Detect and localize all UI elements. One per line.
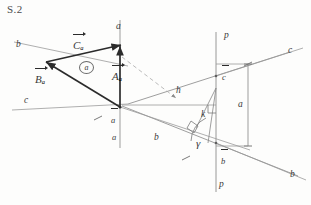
apex-a-bar-overline [111, 108, 118, 109]
tick-b-lower-right [182, 156, 190, 160]
label-vector-C-sub: a [80, 44, 83, 51]
node-apex [119, 106, 122, 109]
label-right-a: a [238, 100, 243, 110]
label-c-bar: c [222, 66, 229, 84]
vector-arrowhead-A [122, 63, 125, 67]
label-trace-b-upper: b [16, 40, 21, 50]
label-plane-marker: a [79, 61, 94, 74]
label-vector-A: Aa [112, 66, 123, 84]
node-cbar [215, 75, 218, 78]
label-b-bar: b [221, 150, 228, 168]
label-axis-a-top: a [116, 22, 121, 32]
right-angle-h [208, 105, 216, 113]
c-bar-overline [222, 65, 229, 66]
label-apex-a-bar: a [111, 109, 118, 127]
label-trace-c-left: c [24, 96, 28, 106]
label-trace-p-top: p [224, 31, 229, 41]
line-segment-a-lower [120, 107, 250, 150]
label-vector-A-sub: a [119, 75, 122, 82]
label-segment-a-lower: a [112, 133, 116, 142]
label-vector-B: Ba [35, 69, 46, 87]
label-vector-A-letter: A [112, 70, 119, 82]
line-trace-b-upper [14, 42, 128, 66]
line-dashed-projection [122, 57, 176, 98]
vector-arrowhead-B [45, 66, 48, 70]
label-trace-p-bottom: p [219, 180, 224, 190]
vector-arrowhead-C [83, 32, 86, 36]
geometry-drawing [0, 0, 311, 205]
label-trace-c-right: c [288, 46, 292, 56]
label-segment-b-lower: b [154, 133, 159, 143]
node-bbar [215, 142, 218, 145]
figure-canvas: S.2 [0, 0, 311, 205]
label-vector-B-letter: B [35, 73, 42, 85]
label-vector-B-sub: a [42, 78, 45, 85]
label-vector-C: Ca [73, 35, 84, 53]
tick-lower-a [94, 116, 102, 120]
b-bar-overline [221, 149, 228, 150]
label-gamma: γ [196, 138, 200, 149]
label-height-h: h [176, 86, 181, 96]
label-trace-b-right: b [290, 170, 295, 180]
label-k: k [201, 110, 205, 120]
